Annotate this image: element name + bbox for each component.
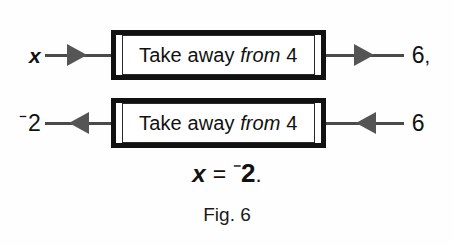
equation-terminator: .	[256, 162, 262, 187]
connector-input-forward	[45, 42, 111, 68]
output-value-forward: 6	[412, 44, 425, 67]
operation-text-prefix: Take away	[139, 44, 240, 66]
input-label-inverse: 6	[404, 112, 454, 135]
function-machine-figure: x Take away from 4 6, ⁻2	[0, 0, 454, 246]
figure-caption: Fig. 6	[0, 205, 454, 224]
connector-input-inverse	[326, 110, 404, 136]
operation-text-forward: Take away from 4	[139, 44, 297, 67]
negative-sign-icon: ⁻	[233, 160, 241, 177]
equation-equals: =	[213, 161, 226, 187]
operation-text-italic: from	[240, 112, 280, 134]
output-label-inverse: ⁻2	[0, 112, 45, 135]
output-label-forward: 6,	[404, 44, 454, 67]
output-value-inverse: 2	[28, 112, 41, 135]
arrow-right-icon	[354, 44, 374, 66]
output-trailing-forward: ,	[425, 46, 431, 66]
equation-variable: x	[192, 160, 205, 187]
operation-box-inner: Take away from 4	[122, 35, 315, 75]
result-equation: x=⁻2.	[0, 160, 454, 186]
operation-text-inverse: Take away from 4	[139, 112, 297, 135]
operation-text-italic: from	[240, 44, 280, 66]
operation-text-suffix: 4	[281, 44, 298, 66]
connector-output-forward	[326, 42, 404, 68]
input-value-forward: x	[29, 45, 41, 66]
flow-row-inverse: ⁻2 Take away from 4 6	[0, 97, 454, 149]
input-label-forward: x	[0, 45, 45, 66]
operation-box-inverse: Take away from 4	[111, 98, 326, 148]
arrow-left-icon	[356, 112, 376, 134]
operation-text-prefix: Take away	[139, 112, 240, 134]
operation-text-suffix: 4	[281, 112, 298, 134]
arrow-left-icon	[69, 112, 89, 134]
negative-sign-icon: ⁻	[19, 111, 27, 126]
equation-value: 2	[241, 158, 255, 188]
arrow-right-icon	[67, 44, 87, 66]
input-value-inverse: 6	[412, 112, 425, 135]
connector-output-inverse	[45, 110, 111, 136]
operation-box-inner: Take away from 4	[122, 103, 315, 143]
flow-row-forward: x Take away from 4 6,	[0, 29, 454, 81]
operation-box-forward: Take away from 4	[111, 30, 326, 80]
